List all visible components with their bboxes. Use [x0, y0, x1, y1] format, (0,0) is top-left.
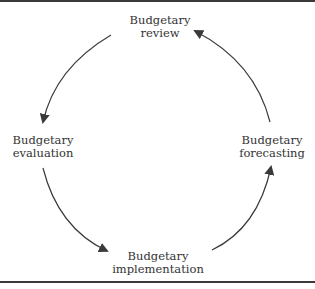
arrow-evaluation-to-implementation [43, 168, 107, 251]
node-label-line2: evaluation [13, 147, 74, 160]
node-budgetary-evaluation: Budgetary evaluation [13, 134, 74, 160]
node-budgetary-implementation: Budgetary implementation [112, 250, 204, 276]
node-label-line2: implementation [112, 263, 204, 276]
arrow-review-to-evaluation [43, 35, 111, 122]
arrow-implementation-to-forecasting [212, 167, 271, 250]
arrow-forecasting-to-review [195, 31, 270, 122]
node-budgetary-forecasting: Budgetary forecasting [239, 134, 305, 160]
node-label-line2: forecasting [239, 147, 305, 160]
node-label-line2: review [130, 27, 191, 40]
node-budgetary-review: Budgetary review [130, 14, 191, 40]
